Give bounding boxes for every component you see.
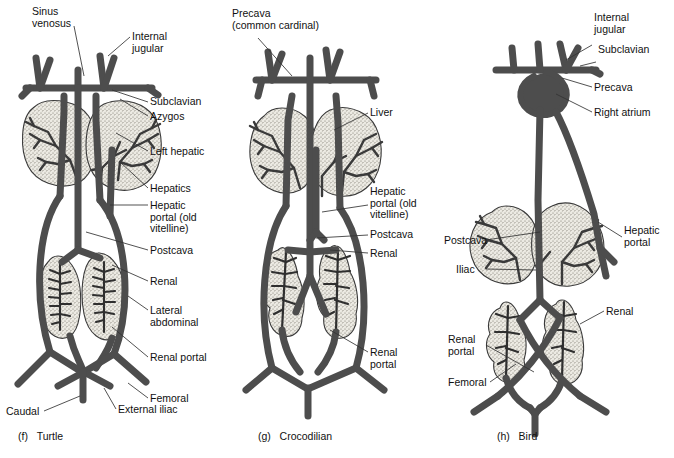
label-bird-internal-jugular: Internal jugular	[594, 12, 629, 35]
caption-crocodilian: (g) Crocodilian	[258, 430, 332, 442]
caption-turtle-letter: (f)	[18, 430, 28, 442]
label-bird-renal: Renal	[606, 306, 633, 318]
label-croc-hepatic-portal: Hepatic portal (old vitelline)	[370, 186, 417, 221]
caption-bird: (h) Bird	[497, 430, 537, 442]
label-croc-liver: Liver	[370, 107, 393, 119]
panel-crocodilian-drawing	[246, 50, 384, 416]
label-turtle-postcava: Postcava	[150, 245, 193, 257]
liver-right-lobe	[310, 108, 381, 197]
label-turtle-renal: Renal	[150, 276, 177, 288]
label-turtle-sinus-venosus: Sinus venosus	[32, 6, 71, 29]
label-turtle-hepatic-portal: Hepatic portal (old vitelline)	[150, 200, 197, 235]
label-turtle-lateral-abdominal: Lateral abdominal	[150, 305, 198, 328]
figure-canvas	[0, 0, 674, 458]
label-turtle-subclavian: Subclavian	[150, 96, 201, 108]
caption-bird-name: Bird	[519, 430, 538, 442]
caption-crocodilian-name: Crocodilian	[280, 430, 333, 442]
label-turtle-external-iliac: External iliac	[118, 404, 178, 416]
label-croc-postcava: Postcava	[370, 229, 413, 241]
label-turtle-renal-portal: Renal portal	[150, 352, 207, 364]
caption-turtle: (f) Turtle	[18, 430, 63, 442]
label-croc-precava: Precava (common cardinal)	[232, 8, 319, 31]
label-bird-femoral: Femoral	[448, 377, 487, 389]
label-bird-right-atrium: Right atrium	[594, 107, 651, 119]
label-turtle-left-hepatic: Left hepatic	[150, 146, 204, 158]
caption-crocodilian-letter: (g)	[258, 430, 271, 442]
label-bird-hepatic-portal: Hepatic portal	[624, 225, 660, 248]
label-turtle-caudal: Caudal	[6, 406, 39, 418]
crocodilian-main-vessels	[246, 50, 384, 416]
label-bird-renal-portal: Renal portal	[448, 334, 475, 357]
label-croc-renal-portal: Renal portal	[370, 347, 397, 370]
label-croc-renal: Renal	[370, 248, 397, 260]
panel-turtle-drawing	[18, 56, 161, 400]
comparative-venous-anatomy-figure: Sinus venosus Internal jugular Subclavia…	[0, 0, 674, 458]
label-turtle-azygos: Azygos	[150, 111, 184, 123]
caption-turtle-name: Turtle	[37, 430, 63, 442]
label-turtle-hepatics: Hepatics	[150, 183, 191, 195]
label-bird-postcava: Postcava	[444, 235, 487, 247]
caption-bird-letter: (h)	[497, 430, 510, 442]
label-bird-iliac: Iliac	[456, 264, 475, 276]
label-bird-precava: Precava	[594, 82, 633, 94]
label-turtle-internal-jugular: Internal jugular	[132, 31, 167, 54]
label-bird-subclavian: Subclavian	[598, 44, 649, 56]
